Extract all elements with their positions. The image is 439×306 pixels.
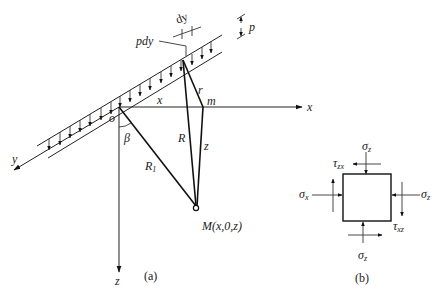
bottom-normal-label: σz	[358, 248, 368, 263]
y-axis	[14, 107, 119, 170]
R1-line	[119, 107, 196, 206]
dy-label: dy	[174, 9, 190, 26]
strip-lower-edge	[48, 52, 222, 158]
right-shear-label: τxz	[393, 219, 405, 234]
R-label: R	[177, 131, 186, 145]
caption-b: (b)	[355, 271, 369, 285]
panel-b: σz τzx σx σz τxz σz (b)	[299, 139, 431, 285]
z-axis-label: z	[114, 274, 120, 288]
stress-element	[343, 174, 391, 221]
origin-label: o	[109, 111, 115, 125]
right-normal-label: σz	[421, 187, 431, 202]
pdy-leader	[159, 41, 186, 46]
point-m-label: m	[207, 94, 216, 108]
p-label: p	[248, 20, 255, 34]
angle-beta-label: β	[123, 131, 130, 145]
z-line	[197, 107, 203, 206]
stress-diagram: x z y o x m β R1 R r z M(x,0,z) pdy d	[0, 0, 439, 306]
load-intensity-indicator	[237, 14, 245, 39]
pdy-label: pdy	[135, 34, 154, 48]
panel-a: x z y o x m β R1 R r z M(x,0,z) pdy d	[11, 9, 313, 288]
dy-dimension-line	[173, 27, 201, 37]
segment-x-label: x	[156, 93, 163, 107]
top-shear-label: τzx	[333, 156, 344, 171]
y-axis-label: y	[11, 152, 18, 166]
caption-a: (a)	[144, 269, 157, 283]
angle-beta-arc	[119, 123, 131, 127]
point-M-label: M(x,0,z)	[201, 219, 242, 233]
left-normal-label: σx	[299, 187, 309, 202]
R1-label: R1	[144, 159, 156, 174]
r-label: r	[198, 83, 203, 97]
strip-upper-edge	[37, 35, 222, 146]
x-axis-label: x	[306, 100, 313, 114]
top-normal-label: σz	[362, 139, 372, 154]
point-M	[193, 205, 198, 210]
z-segment-label: z	[203, 139, 209, 153]
